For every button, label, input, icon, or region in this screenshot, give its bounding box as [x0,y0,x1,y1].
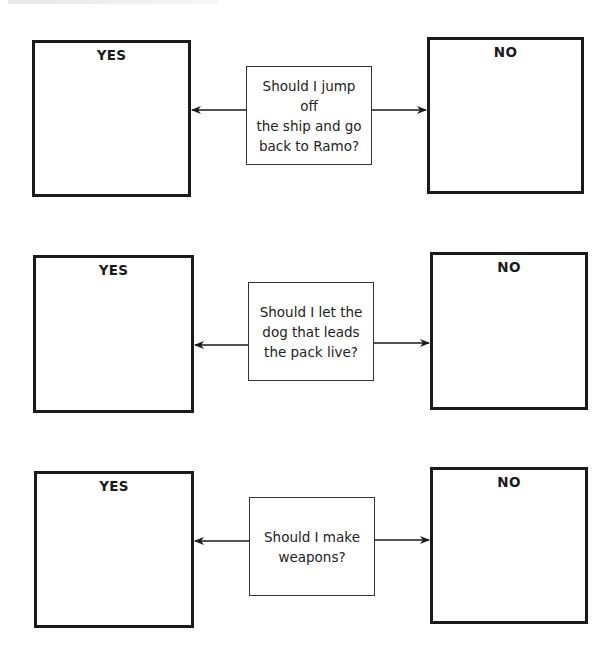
yes-box-row-2: YES [33,255,194,413]
question-text: Should I let the dog that leads the pack… [260,302,363,362]
yes-box-row-3: YES [34,471,194,628]
yes-box-row-1: YES [32,40,191,197]
question-text: Should I jump off the ship and go back t… [253,76,365,156]
no-label: NO [430,44,581,60]
no-label: NO [433,259,585,275]
yes-label: YES [35,47,188,63]
question-box-row-1: Should I jump off the ship and go back t… [246,66,372,165]
question-box-row-3: Should I make weapons? [249,497,375,596]
question-text: Should I make weapons? [264,527,360,567]
question-box-row-2: Should I let the dog that leads the pack… [248,282,374,381]
yes-label: YES [36,262,191,278]
no-box-row-2: NO [430,252,588,410]
yes-label: YES [37,478,191,494]
no-label: NO [433,474,585,490]
cropped-header-text [8,0,218,4]
no-box-row-1: NO [427,37,584,194]
no-box-row-3: NO [430,467,588,624]
